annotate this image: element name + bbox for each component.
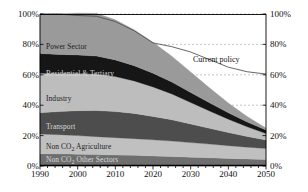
stacked-area-chart: 100% 80% 60% 40% 20% 0% 100% 80% 60% 40%…	[0, 0, 308, 192]
annotation-current-policy: Current policy	[193, 56, 239, 64]
y-axis-right-tick-40: 40%	[270, 101, 306, 110]
y-axis-right-tick-20: 20%	[270, 132, 306, 141]
y-axis-left-tick-20: 20%	[5, 132, 39, 141]
x-axis-tick-2050: 2050	[246, 170, 286, 179]
series-label-non-co2-agriculture: Non CO2 Agriculture	[46, 143, 111, 151]
x-axis-tick-2010: 2010	[95, 170, 135, 179]
y-axis-left-tick-40: 40%	[5, 101, 39, 110]
x-axis-tick-2000: 2000	[58, 170, 98, 179]
series-label-industry: Industry	[46, 95, 71, 103]
series-label-power-sector: Power Sector	[46, 43, 87, 51]
y-axis-right-tick-100: 100%	[270, 10, 306, 19]
y-axis-left-tick-60: 60%	[5, 71, 39, 80]
x-axis-tick-2030: 2030	[171, 170, 211, 179]
y-axis-right-tick-60: 60%	[270, 71, 306, 80]
series-label-non-co2-other-sectors: Non CO2 Other Sectors	[46, 156, 118, 164]
series-label-transport: Transport	[46, 123, 75, 131]
series-label-residential-tertiary: Residential & Tertiary	[46, 70, 114, 78]
x-axis-tick-2040: 2040	[208, 170, 248, 179]
x-axis-tick-1990: 1990	[20, 170, 60, 179]
y-axis-left-tick-100: 100%	[5, 10, 39, 19]
y-axis-right-tick-80: 80%	[270, 40, 306, 49]
x-axis-tick-2020: 2020	[133, 170, 173, 179]
y-axis-left-tick-80: 80%	[5, 40, 39, 49]
